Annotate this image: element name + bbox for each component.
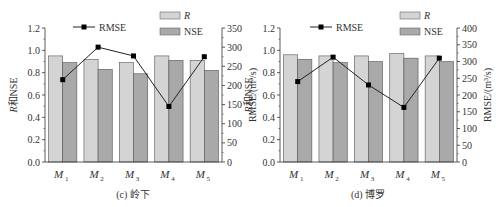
rmse-marker [331,55,336,60]
x-tick-label: M [53,168,64,180]
x-tick-subscript: 2 [100,175,104,183]
right-tick-label: 200 [227,80,242,91]
legend: RMSERNSE [73,10,203,37]
right-tick-label: 400 [462,23,477,34]
bar-r [49,56,63,162]
left-tick-label: 0.2 [28,134,41,145]
x-tick-subscript: 3 [136,175,140,183]
left-tick-label: 1.0 [28,45,41,56]
legend: RMSERNSE [310,10,443,37]
bar-r [284,55,298,162]
x-tick-label: M [394,168,405,180]
legend-rmse-marker-icon [319,25,324,30]
x-tick-subscript: 2 [335,175,339,183]
right-tick-label: 100 [227,118,242,129]
bar-nse [204,70,218,162]
bar-r [425,56,439,162]
chart-panel-c: 0.00.20.40.60.81.01.20501001502002503003… [8,10,259,201]
right-tick-label: 150 [227,99,242,110]
right-tick-label: 200 [462,90,477,101]
legend-rmse-label: RMSE [99,22,126,33]
legend-r-swatch [160,12,180,19]
bar-r [119,63,133,162]
left-tick-label: 0.0 [263,157,276,168]
legend-nse-label: NSE [184,26,203,37]
left-tick-label: 1.0 [263,45,276,56]
bar-nse [169,60,183,162]
right-tick-label: 50 [227,137,237,148]
legend-nse-swatch [160,28,180,35]
x-tick-label: M [288,168,299,180]
bar-r [354,56,368,162]
right-tick-label: 250 [227,61,242,72]
x-tick-label: M [430,168,441,180]
rmse-marker [60,77,65,82]
right-tick-label: 350 [227,23,242,34]
right-axis-title: RMSE/(m³/s) [482,68,494,122]
x-tick-subscript: 3 [371,175,375,183]
legend-rmse-marker-icon [82,25,87,30]
right-tick-label: 100 [462,123,477,134]
chart-figure: 0.00.20.40.60.81.01.20501001502002503003… [0,0,499,207]
x-tick-label: M [159,168,170,180]
left-tick-label: 0.4 [28,112,41,123]
left-axis-title: R和NSE [243,77,254,113]
left-tick-label: 0.8 [28,67,41,78]
bar-nse [98,69,112,162]
rmse-marker [295,79,300,84]
right-tick-label: 250 [462,73,477,84]
bar-nse [134,74,148,162]
legend-r-label: R [183,10,190,21]
right-tick-label: 0 [462,157,467,168]
rmse-marker [131,53,136,58]
bar-group [284,54,454,162]
right-tick-label: 0 [227,157,232,168]
bar-nse [439,62,453,163]
bar-nse [333,63,347,162]
left-tick-label: 0.0 [28,157,41,168]
x-tick-label: M [89,168,100,180]
legend-rmse-label: RMSE [336,22,363,33]
x-tick-label: M [124,168,135,180]
right-tick-label: 300 [227,42,242,53]
x-tick-subscript: 4 [406,175,410,183]
x-tick-subscript: 5 [207,175,211,183]
legend-nse-swatch [400,28,420,35]
legend-nse-label: NSE [424,26,443,37]
left-tick-label: 1.2 [263,23,276,34]
left-tick-label: 0.6 [263,90,276,101]
x-tick-label: M [195,168,206,180]
rmse-marker [166,104,171,109]
panel-caption: (d) 博罗 [351,188,385,201]
bar-nse [369,62,383,163]
rmse-marker [437,56,442,61]
left-tick-label: 0.4 [263,112,276,123]
legend-r-swatch [400,12,420,19]
right-tick-label: 350 [462,39,477,50]
left-tick-label: 0.6 [28,90,41,101]
panel-caption: (c) 岭下 [116,188,150,201]
left-axis-title: R和NSE [8,77,19,113]
x-tick-subscript: 1 [300,175,304,183]
bar-r [190,60,204,162]
right-tick-label: 150 [462,106,477,117]
x-tick-subscript: 4 [171,175,175,183]
chart-panel-d: 0.00.20.40.60.81.01.20501001502002503003… [243,10,494,201]
x-tick-label: M [324,168,335,180]
rmse-marker [401,105,406,110]
x-tick-subscript: 5 [442,175,446,183]
right-tick-label: 300 [462,56,477,67]
right-tick-label: 50 [462,140,472,151]
bar-r [84,59,98,162]
rmse-marker [96,45,101,50]
left-tick-label: 0.2 [263,134,276,145]
rmse-marker [202,54,207,59]
bar-nse [298,59,312,162]
x-tick-label: M [359,168,370,180]
legend-r-label: R [423,10,430,21]
left-tick-label: 1.2 [28,23,41,34]
bar-r [319,56,333,162]
bar-nse [404,58,418,162]
rmse-marker [366,82,371,87]
x-tick-subscript: 1 [65,175,69,183]
